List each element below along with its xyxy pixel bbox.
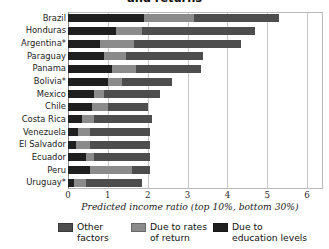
- y-axis-label-paraguay: Paraguay: [0, 52, 66, 61]
- y-axis-label-brazil: Brazil: [0, 14, 66, 23]
- x-tick-label-5: 5: [257, 190, 277, 200]
- bar-segment-due-to-rates-of-return: [78, 128, 90, 136]
- bar-segment-due-to-education-levels: [68, 128, 78, 136]
- bar-segment-due-to-rates-of-return: [90, 166, 132, 174]
- bar-segment-due-to-rates-of-return: [74, 179, 86, 187]
- bar-segment-other-factors: [104, 90, 160, 98]
- y-axis-label-costa-rica: Costa Rica: [0, 115, 66, 124]
- chart-container: and returns BrazilHondurasArgentina*Para…: [0, 0, 329, 249]
- bar-segment-due-to-education-levels: [68, 103, 92, 111]
- chart-title: and returns: [0, 0, 329, 5]
- bar-segment-other-factors: [122, 78, 172, 86]
- bar-segment-due-to-rates-of-return: [112, 65, 136, 73]
- bar-segment-other-factors: [108, 103, 148, 111]
- bar-segment-due-to-rates-of-return: [82, 115, 94, 123]
- bar-segment-other-factors: [126, 52, 204, 60]
- legend-label: Due to rates of return: [150, 222, 207, 243]
- x-tick-label-1: 1: [98, 190, 118, 200]
- bar-segment-other-factors: [86, 179, 142, 187]
- bar-segment-other-factors: [90, 141, 150, 149]
- y-axis-label-mexico: Mexico: [0, 90, 66, 99]
- y-axis-label-honduras: Honduras: [0, 26, 66, 35]
- x-tick-label-0: 0: [58, 190, 78, 200]
- legend-label: Due to education levels: [232, 222, 307, 243]
- y-axis-label-chile: Chile: [0, 102, 66, 111]
- bar-segment-other-factors: [142, 27, 256, 35]
- bar-segment-due-to-education-levels: [68, 52, 104, 60]
- legend-swatch-other-factors: [58, 223, 73, 232]
- bar-segment-due-to-education-levels: [68, 115, 82, 123]
- bar-segment-due-to-education-levels: [68, 141, 76, 149]
- bar-segment-due-to-rates-of-return: [104, 52, 126, 60]
- bar-segment-due-to-rates-of-return: [100, 40, 134, 48]
- y-axis-label-ecuador: Ecuador: [0, 153, 66, 162]
- y-axis-label-peru: Peru: [0, 166, 66, 175]
- x-tick-label-2: 2: [138, 190, 158, 200]
- bar-segment-other-factors: [132, 166, 150, 174]
- bar-segment-other-factors: [94, 115, 152, 123]
- bar-segment-due-to-education-levels: [68, 90, 94, 98]
- bar-segment-due-to-rates-of-return: [94, 90, 104, 98]
- y-axis-labels: BrazilHondurasArgentina*ParaguayPanamaBo…: [0, 12, 66, 189]
- bar-segment-due-to-rates-of-return: [108, 78, 122, 86]
- y-axis-label-bolivia-: Bolivia*: [0, 77, 66, 86]
- legend-item: Due to education levels: [213, 222, 307, 243]
- bar-segment-due-to-rates-of-return: [76, 141, 90, 149]
- bar-segment-due-to-rates-of-return: [144, 14, 194, 22]
- bar-segment-other-factors: [90, 128, 150, 136]
- x-tick-label-3: 3: [178, 190, 198, 200]
- y-axis-label-panama: Panama: [0, 64, 66, 73]
- bar-segment-due-to-rates-of-return: [92, 103, 108, 111]
- bar-segment-due-to-education-levels: [68, 14, 144, 22]
- bar-segment-due-to-rates-of-return: [86, 153, 94, 161]
- legend-swatch-education-levels: [213, 223, 228, 232]
- bar-segment-other-factors: [194, 14, 280, 22]
- x-tick-label-6: 6: [297, 190, 317, 200]
- bar-segment-due-to-rates-of-return: [116, 27, 142, 35]
- y-axis-label-venezuela: Venezuela: [0, 128, 66, 137]
- y-axis-label-uruguay-: Uruguay*: [0, 178, 66, 187]
- bar-segment-other-factors: [94, 153, 150, 161]
- chart-legend: Other factorsDue to rates of returnDue t…: [0, 222, 329, 249]
- legend-item: Other factors: [58, 222, 109, 243]
- bar-segment-due-to-education-levels: [68, 78, 108, 86]
- bar-segment-other-factors: [136, 65, 202, 73]
- x-axis-title: Predicted income ratio (top 10%, bottom …: [55, 201, 325, 212]
- bar-segment-due-to-education-levels: [68, 40, 100, 48]
- x-tick-label-4: 4: [217, 190, 237, 200]
- legend-swatch-rates-of-return: [131, 223, 146, 232]
- y-axis-label-argentina-: Argentina*: [0, 39, 66, 48]
- bar-rows: [68, 12, 323, 189]
- bar-segment-due-to-education-levels: [68, 65, 112, 73]
- y-axis-label-el-salvador: El Salvador: [0, 140, 66, 149]
- legend-item: Due to rates of return: [131, 222, 207, 243]
- bar-segment-due-to-education-levels: [68, 27, 116, 35]
- bar-segment-other-factors: [134, 40, 242, 48]
- bar-segment-due-to-education-levels: [68, 153, 86, 161]
- bar-segment-due-to-education-levels: [68, 166, 90, 174]
- legend-label: Other factors: [77, 222, 109, 243]
